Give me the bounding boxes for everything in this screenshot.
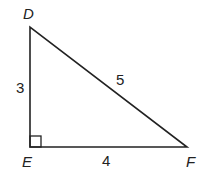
triangle-diagram: D E F 3 4 5 xyxy=(0,0,205,174)
triangle-def xyxy=(30,27,187,147)
side-label-de: 3 xyxy=(16,79,24,96)
side-label-df: 5 xyxy=(116,71,124,88)
side-label-ef: 4 xyxy=(102,152,110,169)
right-angle-marker xyxy=(30,136,41,147)
vertex-label-e: E xyxy=(22,153,33,170)
vertex-label-f: F xyxy=(186,153,196,170)
vertex-label-d: D xyxy=(23,5,34,22)
